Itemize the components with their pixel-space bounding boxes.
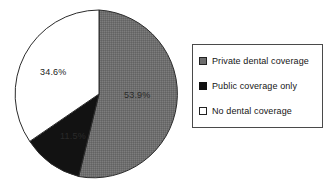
- white-square-swatch: [199, 107, 207, 115]
- pie-label-private: 53.9%: [124, 90, 151, 100]
- legend-item-no-dental-coverage: No dental coverage: [199, 104, 322, 118]
- legend-item-public-coverage-only: Public coverage only: [199, 79, 322, 93]
- legend-item-private-dental-coverage: Private dental coverage: [199, 54, 322, 68]
- pie-label-public: 11.5%: [60, 131, 86, 141]
- black-square-swatch: [199, 82, 207, 90]
- legend-label-public-coverage-only: Public coverage only: [212, 81, 297, 91]
- legend-label-no-dental-coverage: No dental coverage: [212, 106, 292, 116]
- pie-chart-figure: 53.9% 11.5% 34.6% Private dental coverag…: [0, 0, 326, 184]
- legend-label-private-dental-coverage: Private dental coverage: [212, 56, 309, 66]
- chart-legend: Private dental coverage Public coverage …: [192, 44, 323, 128]
- legend-item-list: Private dental coverage Public coverage …: [193, 45, 322, 127]
- gray-square-swatch: [199, 57, 207, 65]
- pie-chart-plot: 53.9% 11.5% 34.6%: [12, 7, 186, 181]
- pie-svg: [12, 7, 186, 181]
- pie-label-none: 34.6%: [40, 67, 67, 77]
